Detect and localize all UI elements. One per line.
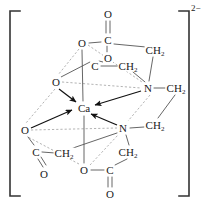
bond-ch2rightbot-nlower bbox=[130, 127, 144, 128]
dashed-edge-obottom-nlower bbox=[90, 135, 118, 165]
bond-nlower-ch2bottommid bbox=[126, 135, 129, 145]
atom-label-o-bottom: O bbox=[105, 189, 115, 200]
atom-label-ch2-bottom-mid: CH2 bbox=[118, 147, 139, 158]
bond-clowerleft-obottomleft-b bbox=[41, 157, 46, 165]
atom-label-o-bottom-mid: O bbox=[79, 165, 89, 176]
structure-drawing bbox=[0, 0, 204, 208]
atom-label-c-top: C bbox=[103, 35, 112, 46]
atom-label-o-upper-left: O bbox=[51, 77, 61, 88]
bond-oupperleft-cupperleft bbox=[61, 62, 90, 77]
dative-arrow-oupperleft-ca bbox=[59, 89, 76, 102]
atom-label-c-lower-left: C bbox=[31, 147, 40, 158]
bond-ctop-otopleft bbox=[89, 42, 101, 43]
atom-label-o-top-left: O bbox=[77, 38, 87, 49]
atom-label-c-upper-left: C bbox=[90, 61, 99, 72]
left-bracket bbox=[10, 11, 20, 196]
bond-ch2topright-nupper bbox=[149, 57, 153, 81]
atom-label-ca-center: Ca bbox=[77, 103, 91, 114]
bond-olowerleft-clowerleft bbox=[28, 137, 34, 145]
bond-otopleft-ca bbox=[82, 50, 83, 101]
atom-label-ch2-top-right: CH2 bbox=[145, 45, 166, 56]
atom-label-ch2-right-top: CH2 bbox=[166, 83, 187, 94]
bond-ctop-ch2topright bbox=[114, 44, 146, 47]
dashed-edge-olower-nlower bbox=[31, 128, 117, 130]
dashed-edge-otop-oupper bbox=[58, 49, 79, 75]
right-bracket bbox=[179, 11, 189, 196]
atom-label-o-lower-left: O bbox=[20, 125, 30, 136]
atom-label-ch2-lower-left: CH2 bbox=[54, 148, 75, 159]
bond-ch2righttop-ch2rightbot bbox=[158, 95, 175, 118]
dative-arrow-nupper-ca bbox=[95, 91, 141, 105]
dashed-edge-oupper-olower bbox=[26, 89, 55, 123]
bond-clowerleft-obottomleft-a bbox=[38, 159, 43, 167]
dashed-edge-nupper-nlower bbox=[128, 95, 150, 121]
bond-ch2bottommid-cbottom bbox=[115, 159, 127, 165]
atom-label-ch2-right-bot: CH2 bbox=[145, 120, 166, 131]
atom-label-o-upper-mid: O bbox=[103, 53, 113, 64]
atom-label-ch2-upper-mid: CH2 bbox=[118, 61, 139, 72]
atom-label-c-bottom: C bbox=[105, 165, 114, 176]
atom-label-o-top-double: O bbox=[103, 9, 113, 20]
atom-label-n-lower: N bbox=[118, 123, 128, 134]
dashed-edge-oupper-nupper bbox=[62, 82, 141, 88]
atom-label-o-bottom-left: O bbox=[39, 169, 49, 180]
charge-superscript: 2− bbox=[191, 3, 201, 13]
dative-arrow-olowerleft-ca bbox=[31, 110, 72, 128]
dative-arrow-nlower-ca bbox=[91, 114, 117, 125]
molecule-figure: O C O CH2 O C CH2 O N CH2 Ca O N CH2 C C… bbox=[0, 0, 204, 208]
atom-label-n-upper: N bbox=[143, 83, 153, 94]
bond-ch2lowerleft-nlower bbox=[73, 133, 117, 148]
